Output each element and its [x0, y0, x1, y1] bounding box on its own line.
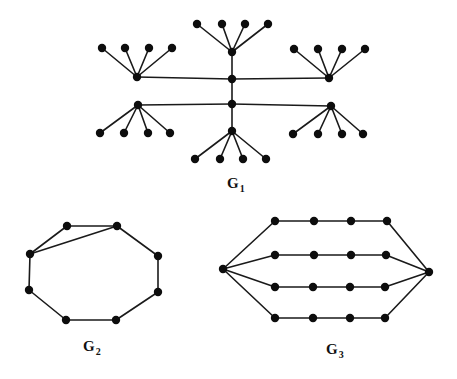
graph-vertex	[271, 217, 279, 225]
graph-vertex	[346, 314, 354, 322]
graph-vertex	[144, 129, 152, 137]
graph-vertex	[168, 44, 176, 52]
graph-vertex	[228, 127, 236, 135]
graph-g3	[219, 217, 433, 322]
graph-vertex	[26, 250, 34, 258]
graph-edge	[30, 226, 117, 254]
graph-g1-label: G1	[227, 176, 245, 194]
graph-vertex	[309, 283, 317, 291]
graph-edge	[116, 292, 158, 320]
graph-vertex	[166, 129, 174, 137]
graph-g2	[25, 222, 162, 324]
graph-g1-label-main: G	[227, 175, 239, 191]
graph-g3-label: G3	[326, 342, 344, 360]
graph-vertex	[191, 155, 199, 163]
graph-edge	[117, 226, 158, 256]
graph-edge	[137, 77, 232, 79]
graph-edge	[223, 269, 275, 318]
graph-vertex	[314, 130, 322, 138]
graph-vertex	[193, 20, 201, 28]
graph-vertex	[271, 251, 279, 259]
graph-vertex	[239, 155, 247, 163]
graph-vertex	[113, 222, 121, 230]
graph-vertex	[228, 100, 236, 108]
graph-edge	[29, 290, 66, 320]
graph-vertex	[347, 217, 355, 225]
graph-vertex	[216, 155, 224, 163]
graph-edge	[138, 104, 232, 105]
graph-edge	[29, 254, 30, 290]
graph-g1	[96, 20, 369, 163]
graph-vertex	[325, 74, 333, 82]
graph-vertex	[145, 44, 153, 52]
graph-g2-label-main: G	[83, 338, 95, 354]
graph-vertex	[120, 129, 128, 137]
graph-edge	[329, 49, 365, 78]
graph-vertex	[327, 102, 335, 110]
graph-vertex	[121, 44, 129, 52]
graph-vertex	[62, 316, 70, 324]
graph-vertex	[338, 45, 346, 53]
graph-edge	[100, 105, 138, 133]
graph-vertex	[98, 44, 106, 52]
graph-vertex	[382, 251, 390, 259]
graph-vertex	[112, 316, 120, 324]
graph-vertex	[425, 268, 433, 276]
graph-vertex	[361, 45, 369, 53]
graph-vertex	[219, 265, 227, 273]
graph-vertex	[264, 20, 272, 28]
graph-g1-label-subscript: 1	[240, 183, 245, 194]
graph-edge	[232, 78, 329, 79]
graph-vertex	[133, 73, 141, 81]
graph-g3-label-subscript: 3	[339, 349, 344, 360]
graph-vertex	[218, 20, 226, 28]
graph-edge	[232, 24, 268, 52]
graph-g2-label-subscript: 2	[96, 346, 101, 357]
graph-g3-label-main: G	[326, 341, 338, 357]
graph-vertex	[314, 45, 322, 53]
graph-edge	[232, 104, 331, 106]
graph-vertex	[310, 251, 318, 259]
graph-vertex	[289, 130, 297, 138]
graph-vertex	[383, 217, 391, 225]
graph-edge	[30, 226, 67, 254]
graph-vertex	[134, 101, 142, 109]
graph-vertex	[228, 48, 236, 56]
graph-vertex	[271, 314, 279, 322]
graph-vertex	[381, 314, 389, 322]
graph-edge	[223, 269, 275, 287]
graph-vertex	[346, 283, 354, 291]
graph-vertex	[290, 45, 298, 53]
graph-vertex	[347, 251, 355, 259]
graph-vertex	[63, 222, 71, 230]
graph-vertex	[25, 286, 33, 294]
graph-vertex	[154, 288, 162, 296]
graph-vertex	[309, 314, 317, 322]
graph-vertex	[96, 129, 104, 137]
graph-vertex	[381, 283, 389, 291]
graph-vertex	[241, 20, 249, 28]
graph-vertex	[228, 75, 236, 83]
graph-vertex	[338, 130, 346, 138]
graph-g2-label: G2	[83, 339, 101, 357]
graph-vertex	[271, 283, 279, 291]
graph-vertex	[262, 155, 270, 163]
graph-vertex	[310, 217, 318, 225]
graph-vertex	[154, 252, 162, 260]
graph-vertex	[359, 130, 367, 138]
